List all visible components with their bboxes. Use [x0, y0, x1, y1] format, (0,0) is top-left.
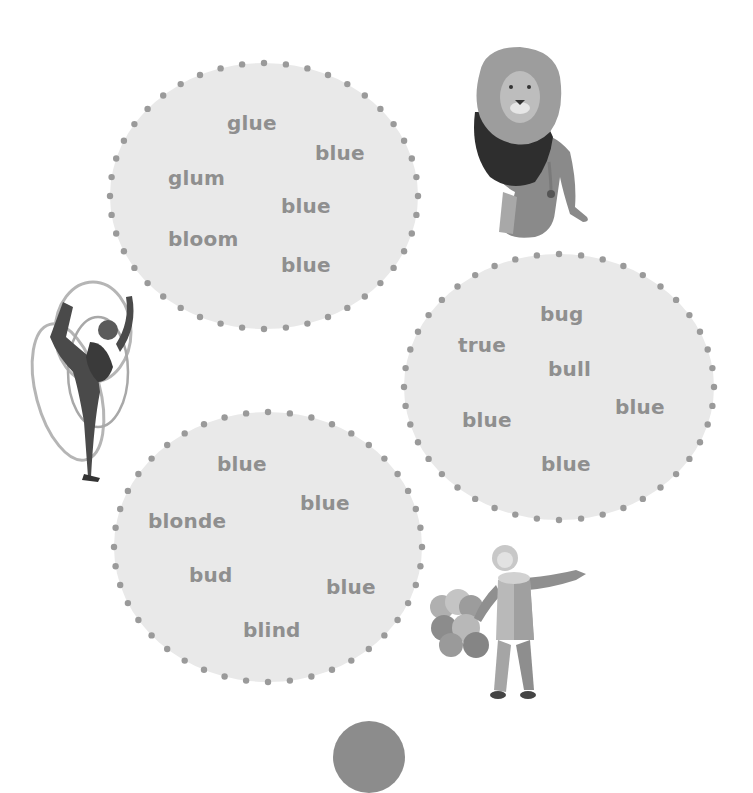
- word-blonde[interactable]: blonde: [148, 511, 226, 531]
- word-blue[interactable]: blue: [326, 577, 376, 597]
- word-blind[interactable]: blind: [243, 620, 301, 640]
- word-blue[interactable]: blue: [300, 493, 350, 513]
- page-tab-semicircle: [333, 721, 405, 793]
- gymnast-image: [28, 272, 148, 484]
- word-blue[interactable]: blue: [217, 454, 267, 474]
- lion-image: [465, 42, 595, 242]
- clown-image: [426, 540, 591, 705]
- word-bud[interactable]: bud: [189, 565, 232, 585]
